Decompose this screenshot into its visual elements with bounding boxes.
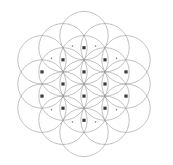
minor-vertex-marker-2 (51, 58, 52, 59)
vertex-marker-1 (61, 58, 64, 61)
vertex-marker-10 (124, 95, 127, 98)
minor-vertex-marker-5 (116, 109, 117, 110)
vertex-marker-3 (40, 70, 43, 73)
minor-vertex-marker-0 (72, 45, 73, 46)
figure-background (0, 0, 173, 165)
minor-vertex-marker-4 (51, 109, 52, 110)
minor-vertex-marker-3 (116, 58, 117, 59)
vertex-marker-7 (103, 82, 106, 85)
vertex-marker-2 (103, 58, 106, 61)
minor-vertex-marker-6 (72, 121, 73, 122)
vertex-marker-8 (40, 95, 43, 98)
vertex-marker-5 (124, 70, 127, 73)
figure-canvas (0, 0, 173, 165)
minor-vertex-marker-7 (95, 121, 96, 122)
vertex-marker-0 (82, 46, 85, 49)
vertex-marker-9 (82, 95, 85, 98)
minor-vertex-marker-1 (95, 45, 96, 46)
vertex-marker-4 (82, 70, 85, 73)
vertex-marker-12 (103, 107, 106, 110)
vertex-marker-11 (61, 107, 64, 110)
vertex-marker-6 (61, 82, 64, 85)
vertex-marker-13 (82, 119, 85, 122)
flower-of-life-figure (0, 0, 173, 165)
